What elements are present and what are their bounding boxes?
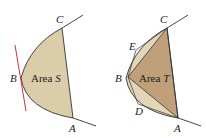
- left-figure: C B A Area S: [10, 13, 96, 134]
- label-d: D: [134, 105, 143, 117]
- label-e: E: [128, 40, 136, 52]
- label-c-left: C: [56, 13, 64, 25]
- label-a-right: A: [173, 122, 181, 134]
- label-b-right: B: [115, 72, 122, 84]
- label-b-left: B: [10, 72, 17, 84]
- label-a-left: A: [68, 122, 76, 134]
- label-c-right: C: [160, 13, 168, 25]
- diagram-canvas: C B A Area S C E B D A Area T: [0, 0, 206, 138]
- right-figure: C E B D A Area T: [115, 13, 201, 134]
- area-t-label: Area T: [139, 72, 170, 84]
- area-s-label: Area S: [31, 72, 61, 84]
